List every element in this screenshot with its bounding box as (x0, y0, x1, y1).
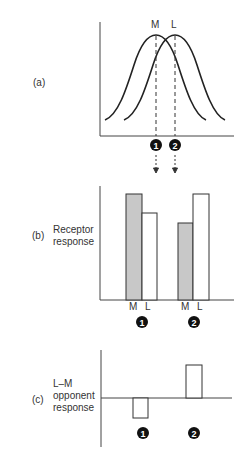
panel-b-ylabel-2: response (53, 236, 94, 248)
bar-label-m-2: M (181, 301, 189, 313)
svg-text:1: 1 (140, 429, 145, 439)
panel-b-axes (100, 186, 234, 300)
panel-c-markers: 1 2 (137, 427, 200, 439)
bar-m-1 (126, 194, 142, 300)
bar-l-2 (193, 194, 209, 300)
panel-b-markers: 1 2 (136, 316, 200, 328)
bar-label-l-2: L (197, 301, 203, 313)
panel-a-label: (a) (33, 77, 45, 88)
panel-b-bars (126, 194, 209, 300)
bar-opponent-1 (133, 398, 148, 418)
panel-c-label: (c) (32, 394, 44, 405)
panel-c-ylabel-2: opponent (53, 390, 95, 402)
svg-text:2: 2 (191, 318, 196, 328)
svg-text:1: 1 (153, 141, 158, 151)
panel-b-label: (b) (32, 230, 44, 241)
panel-c-axes (101, 350, 232, 447)
svg-text:2: 2 (172, 141, 177, 151)
panel-c-ylabel-3: response (53, 402, 94, 414)
svg-text:1: 1 (139, 318, 144, 328)
panel-a-curves (105, 35, 225, 120)
panel-c-bars (133, 365, 202, 418)
bar-m-2 (178, 223, 193, 300)
panel-c-ylabel-1: L–M (53, 378, 72, 390)
bar-opponent-2 (186, 365, 202, 398)
panel-b-ylabel-1: Receptor (53, 224, 94, 236)
panel-a-markers: 1 2 (150, 139, 181, 151)
peak-label-m: M (151, 19, 159, 31)
svg-text:2: 2 (191, 429, 196, 439)
bar-label-l-1: L (145, 301, 151, 313)
peak-label-l: L (171, 19, 177, 31)
bar-label-m-1: M (129, 301, 137, 313)
panel-a-arrows (154, 155, 178, 173)
bar-l-1 (142, 213, 157, 300)
